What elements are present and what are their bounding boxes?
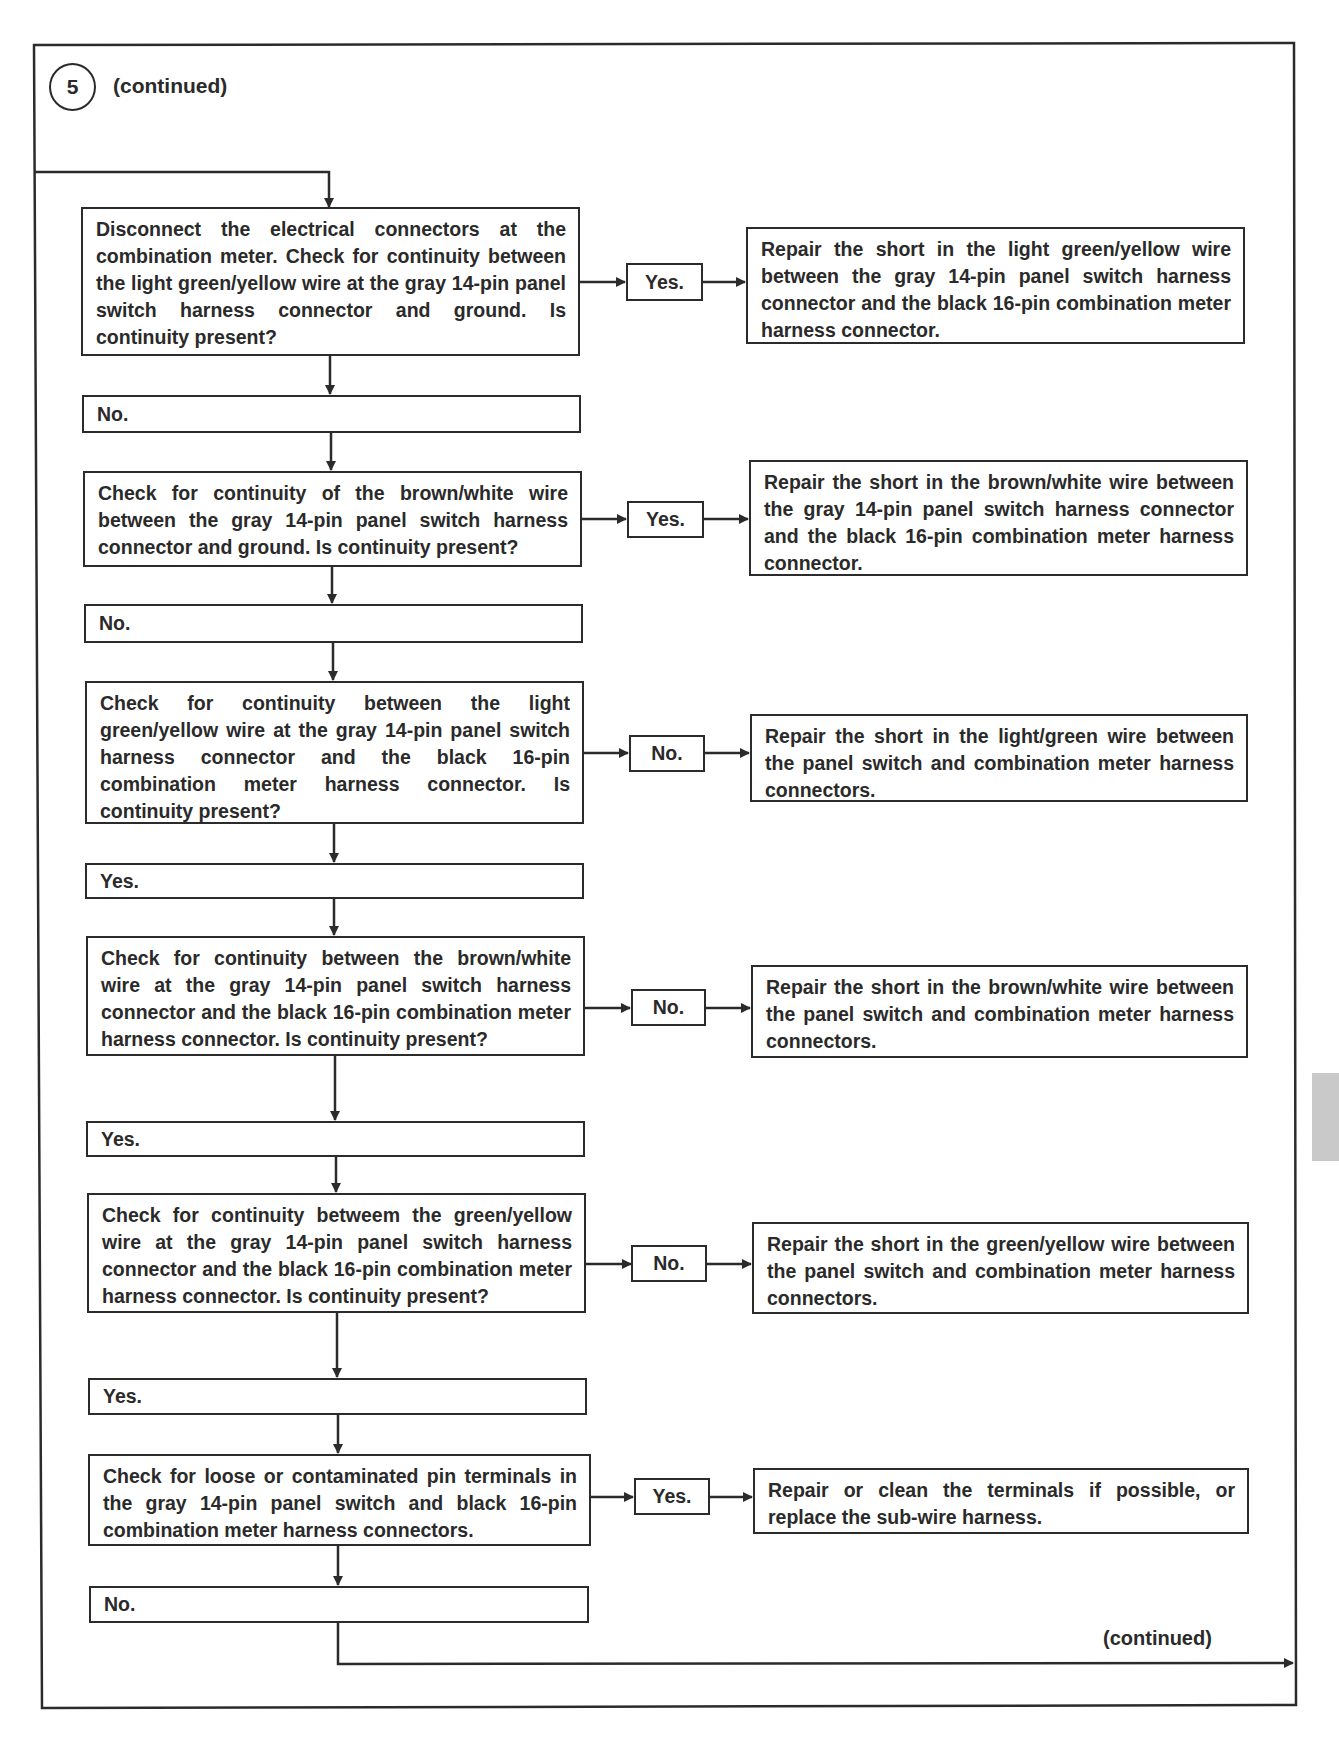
- action-box-4: Repair the short in the brown/white wire…: [751, 965, 1248, 1058]
- branch-label-2: Yes.: [627, 501, 704, 538]
- continue-label-6: No.: [89, 1586, 589, 1623]
- action-box-3: Repair the short in the light/green wire…: [750, 714, 1248, 802]
- branch-label-4: No.: [631, 989, 706, 1026]
- branch-label-6: Yes.: [634, 1478, 710, 1515]
- continue-label-3: Yes.: [85, 863, 584, 899]
- step-number: 5: [67, 75, 79, 99]
- branch-label-3: No.: [629, 735, 705, 772]
- action-box-6: Repair or clean the terminals if possibl…: [753, 1468, 1249, 1534]
- question-box-3: Check for continuity between the light g…: [85, 681, 584, 824]
- header-continued-label: (continued): [113, 74, 227, 98]
- question-box-5: Check for continuity betweem the green/y…: [87, 1193, 586, 1313]
- question-box-6: Check for loose or contaminated pin term…: [88, 1454, 591, 1546]
- continue-label-4: Yes.: [86, 1121, 585, 1157]
- action-box-5: Repair the short in the green/yellow wir…: [752, 1222, 1249, 1314]
- step-number-badge: 5: [49, 63, 96, 111]
- continue-label-2: No.: [84, 604, 583, 643]
- question-box-2: Check for continuity of the brown/white …: [83, 471, 582, 567]
- action-box-1: Repair the short in the light green/yell…: [746, 227, 1245, 344]
- continue-label-5: Yes.: [88, 1378, 587, 1415]
- action-box-2: Repair the short in the brown/white wire…: [749, 460, 1248, 576]
- question-box-4: Check for continuity between the brown/w…: [86, 936, 585, 1056]
- branch-label-5: No.: [631, 1245, 707, 1282]
- question-box-1: Disconnect the electrical connectors at …: [81, 207, 580, 356]
- section-thumb-tab: [1312, 1073, 1339, 1161]
- continue-label-1: No.: [82, 395, 581, 433]
- branch-label-1: Yes.: [626, 263, 703, 301]
- footer-continued-label: (continued): [1103, 1627, 1212, 1650]
